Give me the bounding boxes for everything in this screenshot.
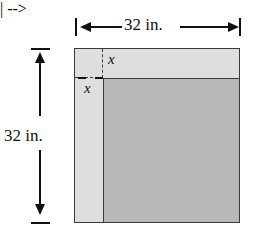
left-dimension-line-bottom <box>39 150 41 205</box>
top-dimension-line-left <box>86 26 122 28</box>
top-dimension-tick-left <box>75 18 77 36</box>
left-dimension-tick-top <box>31 48 50 50</box>
arrow-left-icon <box>80 22 91 32</box>
arrow-down-icon <box>35 204 45 215</box>
x-tick-left <box>78 77 86 79</box>
top-dimension-label: 32 in. <box>124 16 163 33</box>
x-label-left: x <box>84 81 91 96</box>
dashed-guide-vertical <box>102 49 103 78</box>
inner-rectangle <box>103 78 240 223</box>
top-dimension-line-right <box>180 26 233 28</box>
left-dimension-label: 32 in. <box>4 127 43 144</box>
geometry-figure: | --> 32 in. 32 in. x x <box>0 0 257 237</box>
top-dimension-tick-right <box>239 18 241 36</box>
left-dimension-line-top <box>39 58 41 116</box>
left-dimension-tick-bottom <box>31 222 50 224</box>
x-label-top: x <box>108 52 115 67</box>
x-tick-right <box>95 77 103 79</box>
arrow-right-icon <box>228 22 239 32</box>
